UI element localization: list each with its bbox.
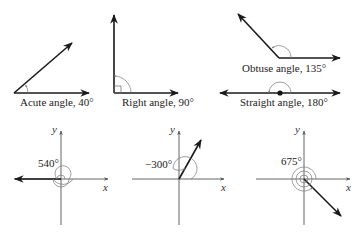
- angles-figure: Acute angle, 40° Right angle, 90° Obtuse…: [0, 0, 361, 240]
- acute-angle-label: Acute angle, 40°: [20, 96, 94, 108]
- x-axis-label: x: [102, 181, 108, 193]
- angle-neg300-diagram: x y −300°: [132, 123, 226, 225]
- x-axis-label: x: [220, 181, 226, 193]
- right-angle-label: Right angle, 90°: [122, 96, 194, 108]
- right-angle-arc: [114, 76, 131, 93]
- obtuse-angle-label: Obtuse angle, 135°: [242, 62, 326, 74]
- y-axis-label: y: [51, 123, 57, 135]
- straight-angle-label: Straight angle, 180°: [240, 96, 328, 108]
- angle-540-label: 540°: [38, 157, 59, 169]
- right-angle-diagram: Right angle, 90°: [114, 15, 194, 108]
- angle-neg300-label: −300°: [145, 158, 172, 170]
- right-angle-square-marker: [114, 86, 121, 93]
- acute-angle-arc: [26, 85, 29, 93]
- angle-540-diagram: x y 540°: [14, 123, 108, 225]
- acute-terminal-ray: [14, 43, 72, 93]
- x-axis-label: x: [345, 181, 351, 193]
- obtuse-terminal-ray: [238, 14, 279, 58]
- acute-angle-diagram: Acute angle, 40°: [14, 43, 94, 108]
- y-axis-label: y: [169, 123, 175, 135]
- angle-675-label: 675°: [281, 155, 302, 167]
- rotation-arc-spiral: [53, 179, 73, 184]
- straight-angle-diagram: Straight angle, 180°: [220, 82, 340, 108]
- terminal-ray: [179, 140, 201, 179]
- obtuse-angle-arc: [272, 46, 291, 58]
- straight-vertex-dot: [277, 90, 282, 95]
- y-axis-label: y: [294, 123, 300, 135]
- obtuse-angle-diagram: Obtuse angle, 135°: [238, 14, 340, 74]
- angle-675-diagram: x y 675°: [256, 123, 351, 225]
